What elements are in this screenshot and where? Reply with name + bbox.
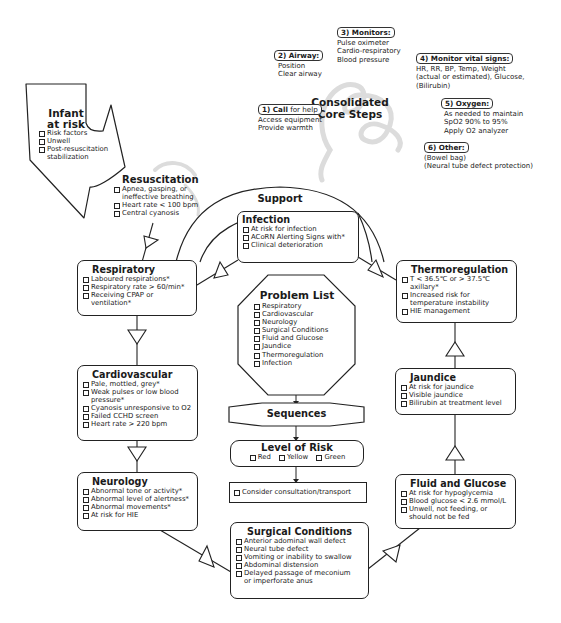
checklist-item[interactable]: At risk for HIE [82, 511, 193, 519]
checklist-item[interactable]: T < 36.5℃ or > 37.5℃ axillary* [401, 275, 494, 291]
checklist-item[interactable]: HIE management [401, 307, 512, 315]
checklist-item[interactable]: Consider consultation/transport [233, 488, 363, 496]
core-step-6-other: 6) Other: (Bowel bag) (Neural tube defec… [424, 135, 533, 171]
core-step-1-label: 1) Call for help [258, 104, 322, 115]
problem-list-item[interactable]: Surgical Conditions [253, 326, 348, 334]
respiratory-box: Respiratory Laboured respirations* Respi… [77, 260, 197, 316]
checklist-item[interactable]: Laboured respirations* [82, 275, 192, 283]
checklist-item[interactable]: Risk factors [38, 129, 118, 137]
checklist-item[interactable]: Pale, mottled, grey* [82, 380, 193, 388]
jaundice-box: Jaundice At risk for jaundice Visible ja… [395, 368, 516, 415]
infant-at-risk-title-line1: Infant [38, 108, 94, 119]
resuscitation: Resuscitation Apnea, gasping, or ineffec… [113, 174, 205, 217]
checklist-item[interactable]: Unwell, not feeding, or should not be fe… [400, 505, 497, 521]
level-of-risk-box: Level of Risk Red Yellow Green [230, 440, 364, 467]
risk-option-green[interactable]: Green [315, 453, 345, 461]
checklist-item[interactable]: Heart rate > 220 bpm [82, 420, 193, 428]
resuscitation-title: Resuscitation [113, 174, 205, 185]
core-step-5-line: Apply O2 analyzer [441, 127, 523, 135]
checklist-item[interactable]: Bilirubin at treatment level [400, 399, 511, 407]
checklist-item[interactable]: Abdominal distension [235, 561, 364, 569]
checklist-item[interactable]: Post-resuscitation stabilization [38, 145, 119, 161]
support-label: Support [250, 193, 310, 204]
checklist-item[interactable]: Heart rate < 100 bpm [113, 201, 205, 209]
problem-list-item[interactable]: Infection [253, 359, 348, 367]
respiratory-title: Respiratory [82, 264, 192, 275]
neurology-box: Neurology Abnormal tone or activity* Abn… [77, 472, 198, 531]
problem-list-item[interactable]: Thermoregulation [253, 351, 348, 359]
core-step-6-line: (Bowel bag) [424, 154, 533, 162]
fluid-glucose-title: Fluid and Glucose [400, 478, 511, 489]
checklist-item[interactable]: At risk for jaundice [400, 383, 511, 391]
core-step-3-line: Pulse oximeter [337, 39, 401, 47]
connector-triangle [128, 447, 146, 461]
problem-list-item[interactable]: Fluid and Glucose [253, 334, 348, 342]
connector-triangle [383, 545, 400, 562]
core-step-4-line: HR, RR, BP, Temp, Weight [416, 65, 524, 73]
problem-list-item[interactable]: Neurology [253, 318, 348, 326]
core-step-4-line: (actual or estimated), Glucose, [416, 73, 524, 81]
checklist-item[interactable]: Anterior adominal wall defect [235, 537, 364, 545]
checklist-item[interactable]: Increased risk for temperature instabili… [401, 291, 508, 307]
checklist-item[interactable]: ACoRN Alerting Signs with* [242, 233, 354, 241]
checklist-item[interactable]: Receiving CPAP or ventilation* [82, 291, 171, 307]
core-step-4-label: 4) Monitor vital signs: [416, 53, 513, 64]
checklist-item[interactable]: Respiratory rate > 60/min* [82, 283, 192, 291]
problem-list-item[interactable]: Respiratory [253, 302, 348, 310]
connector-triangle [446, 446, 464, 460]
problem-list-item[interactable]: Jaundice [253, 342, 348, 350]
checklist-item[interactable]: Failed CCHD screen [82, 412, 193, 420]
core-step-1-line: Provide warmth [258, 124, 322, 132]
connector-triangle [199, 546, 214, 567]
core-step-2-line: Position [274, 62, 323, 70]
level-of-risk-title: Level of Risk [235, 442, 359, 453]
risk-option-yellow[interactable]: Yellow [278, 453, 308, 461]
core-step-3-label: 3) Monitors: [337, 27, 395, 38]
checklist-item[interactable]: Clinical deterioration [242, 241, 354, 249]
connector-triangle [446, 342, 464, 356]
checklist-item[interactable]: Vomiting or inability to swallow [235, 553, 364, 561]
problem-list-title: Problem List [253, 289, 341, 302]
checklist-item[interactable]: Cyanosis unresponsive to O2 [82, 404, 193, 412]
infection-title: Infection [242, 214, 354, 225]
checklist-item[interactable]: Central cyanosis [113, 209, 205, 217]
checklist-item[interactable]: Weak pulses or low blood pressure* [82, 388, 189, 404]
checklist-item[interactable]: Delayed passage of meconium or imperfora… [235, 569, 356, 585]
core-step-2-label: 2) Airway: [274, 50, 323, 61]
problem-list: Problem List Respiratory Cardiovascular … [253, 289, 348, 367]
fluid-glucose-box: Fluid and Glucose At risk for hypoglycem… [395, 474, 516, 529]
checklist-item[interactable]: Blood glucose < 2.6 mmol/L [400, 497, 511, 505]
core-step-6-line: (Neural tube defect protection) [424, 162, 533, 170]
core-step-4-vitals: 4) Monitor vital signs: HR, RR, BP, Temp… [416, 46, 524, 90]
infant-at-risk: Infant at risk Risk factors Unwell Post-… [38, 108, 118, 161]
surgical-conditions-title: Surgical Conditions [235, 526, 364, 537]
problem-list-item[interactable]: Cardiovascular [253, 310, 348, 318]
surgical-conditions-box: Surgical Conditions Anterior adominal wa… [230, 522, 369, 599]
thermoregulation-box: Thermoregulation T < 36.5℃ or > 37.5℃ ax… [396, 260, 517, 323]
connector-triangle [368, 260, 383, 277]
checklist-item[interactable]: Abnormal tone or activity* [82, 487, 193, 495]
level-of-risk-options: Red Yellow Green [235, 453, 359, 462]
core-step-6-label: 6) Other: [424, 142, 469, 153]
thermoregulation-title: Thermoregulation [401, 264, 512, 275]
infection-box: Infection At risk for infection ACoRN Al… [237, 211, 359, 263]
core-step-4-line: (Bilirubin) [416, 82, 524, 90]
checklist-item[interactable]: Apnea, gasping, or ineffective breathing [113, 185, 205, 201]
neurology-title: Neurology [82, 476, 193, 487]
checklist-item[interactable]: Unwell [38, 137, 118, 145]
connector-triangle [144, 236, 158, 248]
jaundice-title: Jaundice [400, 372, 511, 383]
core-step-5-label: 5) Oxygen: [441, 98, 493, 109]
core-step-3-monitors: 3) Monitors: Pulse oximeter Cardio-respi… [337, 20, 401, 64]
checklist-item[interactable]: Abnormal movements* [82, 503, 193, 511]
checklist-item[interactable]: Visible jaundice [400, 391, 511, 399]
core-step-1-call: 1) Call for help Access equipment Provid… [258, 97, 322, 133]
core-step-3-line: Cardio-respiratory [337, 47, 401, 55]
sequences-label: Sequences [229, 408, 364, 419]
risk-option-red[interactable]: Red [249, 453, 271, 461]
checklist-item[interactable]: Abnormal level of alertness* [82, 495, 193, 503]
connector-triangle [214, 262, 228, 278]
checklist-item[interactable]: Neural tube defect [235, 545, 364, 553]
checklist-item[interactable]: At risk for hypoglycemia [400, 489, 511, 497]
checklist-item[interactable]: At risk for infection [242, 225, 354, 233]
